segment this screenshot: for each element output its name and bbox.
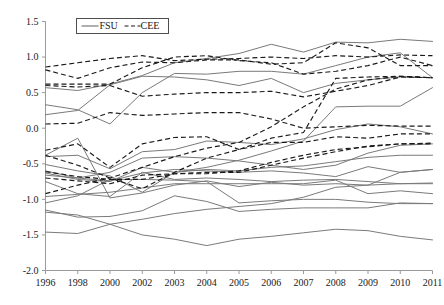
y-tick-label: -1.0 bbox=[23, 194, 39, 205]
chart-canvas: 1.51.00.50.0-0.5-1.0-1.5-2.0 19961998200… bbox=[0, 0, 444, 305]
y-tick-label: 0.0 bbox=[26, 123, 39, 134]
x-tick-label: 2008 bbox=[326, 277, 346, 288]
chart-legend: FSU CEE bbox=[77, 19, 169, 34]
series-line bbox=[46, 134, 433, 167]
series-line bbox=[46, 39, 433, 90]
x-tick-label: 2005 bbox=[229, 277, 249, 288]
x-tick-label: 2004 bbox=[197, 277, 217, 288]
y-tick-label: 1.0 bbox=[26, 51, 39, 62]
y-tick-label: -0.5 bbox=[23, 158, 39, 169]
series-line bbox=[46, 76, 433, 193]
series-group-cee bbox=[46, 43, 433, 194]
series-line bbox=[46, 76, 433, 114]
line-chart: 1.51.00.50.0-0.5-1.0-1.5-2.0 19961998200… bbox=[0, 0, 444, 305]
series-line bbox=[46, 183, 433, 234]
legend-label-fsu: FSU bbox=[100, 20, 119, 31]
series-line bbox=[46, 212, 433, 245]
series-line bbox=[46, 43, 433, 79]
y-tick-label: -2.0 bbox=[23, 265, 39, 276]
x-tick-label: 1996 bbox=[36, 277, 56, 288]
x-tick-label: 2000 bbox=[100, 277, 120, 288]
y-axis-ticks: 1.51.00.50.0-0.5-1.0-1.5-2.0 bbox=[23, 16, 46, 276]
x-tick-label: 2011 bbox=[423, 277, 443, 288]
series-line bbox=[46, 88, 433, 193]
x-tick-label: 2009 bbox=[358, 277, 378, 288]
y-tick-label: 0.5 bbox=[26, 87, 39, 98]
x-tick-label: 2010 bbox=[390, 277, 410, 288]
legend-label-cee: CEE bbox=[141, 20, 160, 31]
x-axis-ticks: 1996199820002002200320042005200620072008… bbox=[36, 271, 443, 288]
series-line bbox=[46, 113, 433, 129]
y-tick-label: -1.5 bbox=[23, 229, 39, 240]
y-tick-label: 1.5 bbox=[26, 16, 39, 27]
x-tick-label: 2002 bbox=[132, 277, 152, 288]
series-line bbox=[46, 55, 433, 67]
series-line bbox=[46, 77, 433, 97]
series-line bbox=[46, 155, 433, 181]
x-tick-label: 2006 bbox=[261, 277, 281, 288]
x-tick-label: 1998 bbox=[68, 277, 88, 288]
x-tick-label: 2003 bbox=[165, 277, 185, 288]
x-tick-label: 2007 bbox=[294, 277, 314, 288]
